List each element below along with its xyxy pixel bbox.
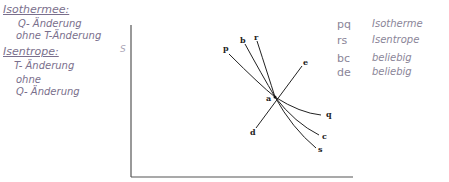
legend-desc-bc: beliebig xyxy=(372,52,412,63)
label-e: e xyxy=(303,57,308,67)
legend-code-rs: rs xyxy=(337,34,347,47)
legend-code-pq: pq xyxy=(337,18,351,31)
label-a: a xyxy=(266,93,271,103)
label-b: b xyxy=(240,35,246,45)
legend-code-de: de xyxy=(337,66,351,79)
y-axis-label: S xyxy=(120,44,126,54)
legend-desc-pq: Isotherme xyxy=(372,18,423,29)
legend-code-bc: bc xyxy=(337,52,350,65)
label-s: s xyxy=(318,144,323,154)
legend-desc-rs: Isentrope xyxy=(372,34,419,45)
legend-desc-de: beliebig xyxy=(372,66,412,77)
label-q: q xyxy=(326,109,332,119)
point-a xyxy=(274,96,277,99)
label-d: d xyxy=(250,127,256,137)
label-c: c xyxy=(322,131,327,141)
label-p: p xyxy=(223,43,229,53)
label-r: r xyxy=(254,32,259,42)
